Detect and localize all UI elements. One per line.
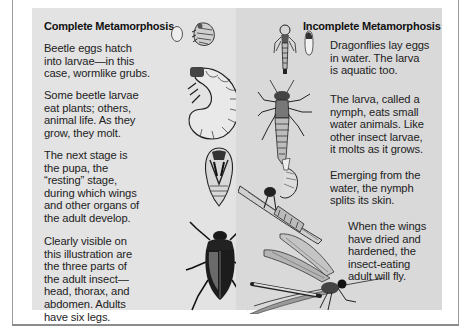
dragonfly-egg-icon [304,30,314,56]
paragraph-dragonfly-eggs: Dragonflies lay eggs in water. The larva… [330,39,429,77]
page-frame-bottom-rule [12,324,459,326]
beetle-egg-icon [170,25,184,43]
incomplete-metamorphosis-panel: Incomplete Metamorphosis Dragonflies lay… [236,8,442,310]
complete-metamorphosis-heading: Complete Metamorphosis [44,20,174,32]
adult-dragonfly-icon [250,228,390,314]
paragraph-pupa-stage: The next stage is the pupa, the “resting… [44,149,139,225]
young-nymph-icon [272,23,298,75]
page-frame-right-rule [458,0,459,325]
incomplete-metamorphosis-heading: Incomplete Metamorphosis [303,20,441,32]
paragraph-larvae-eat: Some beetle larvae eat plants; others, a… [44,89,139,139]
paragraph-adult-beetle: Clearly visible on this illustration are… [44,235,132,323]
paragraph-nymph-eats: The larva, called a nymph, eats small wa… [330,93,424,156]
page-frame-left-rule [12,0,13,325]
beetle-pupa-icon [202,146,236,208]
paragraph-eggs-hatch: Beetle eggs hatch into larvae—in this ca… [44,42,150,80]
dragonfly-nymph-icon [256,78,316,168]
complete-metamorphosis-panel: Complete Metamorphosis Beetle eggs hatch… [32,8,236,310]
newly-hatched-larva-icon [190,20,218,50]
paragraph-nymph-emerges: Emerging from the water, the nymph split… [330,169,420,207]
